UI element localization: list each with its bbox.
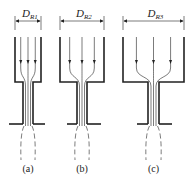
jet-boundary (32, 126, 35, 160)
flow-arrow-icon (34, 60, 37, 64)
dimension-label: DR1 (21, 7, 38, 21)
panel-caption: (a) (22, 163, 33, 175)
flow-arrow-icon (81, 60, 84, 64)
flow-arrow-icon (93, 60, 96, 64)
nozzle-diagram: DR1(a)DR2(b)DR3(c) (0, 0, 193, 178)
vessel-wall-right (33, 37, 41, 124)
flow-arrow-icon (169, 60, 172, 64)
flow-arrow-icon (27, 60, 30, 64)
flow-arrow-icon (152, 60, 155, 64)
vessel-wall-right (159, 37, 184, 124)
panel-a: DR1(a) (9, 7, 45, 175)
vessel-wall-left (123, 37, 148, 124)
panel-caption: (c) (148, 163, 159, 175)
panel-caption: (b) (76, 163, 88, 175)
flow-arrow-icon (19, 60, 22, 64)
vessel-wall-left (15, 37, 23, 124)
panel-b: DR2(b) (60, 7, 104, 175)
jet-boundary (75, 126, 78, 160)
flow-arrow-icon (135, 60, 138, 64)
jet-boundary (21, 126, 24, 160)
jet-boundary (146, 126, 150, 160)
vessel-wall-right (87, 37, 104, 124)
dimension-label: DR2 (75, 7, 92, 21)
panel-c: DR3(c) (123, 7, 184, 175)
jet-boundary (158, 126, 162, 160)
flow-arrow-icon (68, 60, 71, 64)
jet-boundary (86, 126, 89, 160)
dimension-label: DR3 (147, 7, 164, 21)
vessel-wall-left (60, 37, 77, 124)
